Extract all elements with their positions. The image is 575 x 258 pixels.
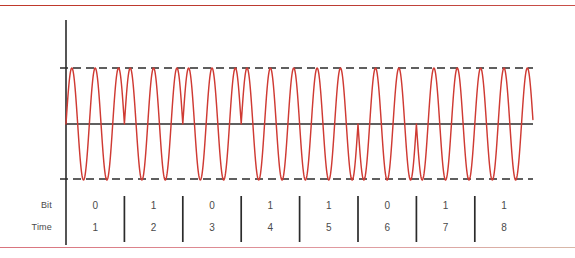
time-value: 4: [258, 222, 282, 233]
bit-value: 1: [317, 200, 341, 211]
bit-value: 0: [375, 200, 399, 211]
bit-value: 1: [142, 200, 166, 211]
time-value: 6: [375, 222, 399, 233]
bit-value: 1: [434, 200, 458, 211]
time-value: 2: [142, 222, 166, 233]
time-value: 1: [83, 222, 107, 233]
time-value: 8: [492, 222, 516, 233]
carrier-waveform: [66, 68, 533, 180]
psk-waveform-figure: Bit Time 01011011 12345678: [0, 0, 575, 258]
bit-row-label: Bit: [12, 200, 52, 210]
bit-value: 1: [258, 200, 282, 211]
bit-boundary-ticks: [124, 196, 474, 242]
bit-value: 1: [492, 200, 516, 211]
time-row-label: Time: [12, 222, 52, 232]
time-value: 3: [200, 222, 224, 233]
time-value: 7: [434, 222, 458, 233]
bit-value: 0: [200, 200, 224, 211]
time-value: 5: [317, 222, 341, 233]
waveform-plot: [0, 0, 575, 258]
bit-value: 0: [83, 200, 107, 211]
